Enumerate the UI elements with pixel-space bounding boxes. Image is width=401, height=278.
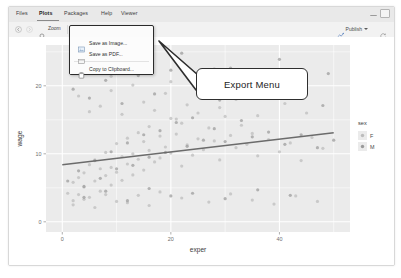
annotation-callout: Export Menu [196,68,308,100]
svg-text:20: 20 [36,83,42,89]
menu-item-copy-to-clipboard[interactable]: Copy to Clipboard... [70,63,153,75]
forward-arrow-icon[interactable] [26,26,33,33]
clipboard-icon [78,65,85,72]
svg-text:M: M [370,144,375,150]
publish-button-label: Publish [346,26,362,32]
chevron-down-icon [364,28,368,30]
back-arrow-icon[interactable] [15,26,22,33]
menu-item-label: Copy to Clipboard... [89,66,134,72]
svg-text:40: 40 [276,236,282,242]
minimize-icon[interactable] [370,12,377,16]
plots-toolbar: Zoom Export Publish [9,22,394,38]
export-dropdown-menu[interactable]: Save as Image... Save as PDF... Copy to … [69,25,154,75]
zoom-button[interactable]: Zoom [48,25,61,31]
svg-text:0: 0 [39,219,42,225]
svg-text:0: 0 [61,236,64,242]
tab-viewer[interactable]: Viewer [121,10,138,16]
svg-text:sex: sex [358,120,367,126]
menu-item-save-as-image[interactable]: Save as Image... [70,37,153,49]
svg-text:20: 20 [168,236,174,242]
svg-text:exper: exper [190,246,207,254]
magnifier-icon[interactable] [39,26,46,33]
tab-help[interactable]: Help [101,10,112,16]
tab-packages[interactable]: Packages [64,10,88,16]
menu-item-label: Save as Image... [89,40,127,46]
publish-icon [337,25,344,32]
pane-tabstrip: Files Plots Packages Help Viewer [9,7,394,23]
publish-button[interactable]: Publish [337,25,368,32]
rstudio-plots-pane: Files Plots Packages Help Viewer Zoom [8,6,395,266]
menu-divider [74,61,149,62]
window-controls [370,9,390,18]
menu-item-label: Save as PDF... [89,51,123,57]
annotation-label: Export Menu [224,79,280,90]
toolbar-separator [67,25,68,34]
image-icon [78,39,85,46]
maximize-icon[interactable] [380,9,390,18]
tab-plots[interactable]: Plots [39,10,52,16]
refresh-icon[interactable] [379,26,387,34]
pdf-icon [78,51,85,58]
export-menu-list: Save as Image... Save as PDF... Copy to … [70,37,153,74]
svg-text:F: F [370,133,374,139]
menu-item-save-as-pdf[interactable]: Save as PDF... [70,49,153,61]
tab-files[interactable]: Files [16,10,28,16]
svg-text:10: 10 [36,151,42,157]
svg-text:wage: wage [16,130,24,147]
